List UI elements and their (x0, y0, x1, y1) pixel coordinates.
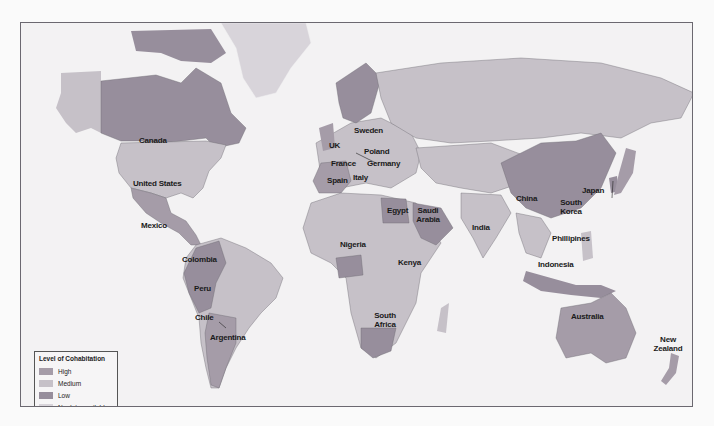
swatch-medium (39, 380, 53, 387)
label-united-states: United States (133, 179, 182, 188)
label-sweden: Sweden (354, 126, 383, 135)
label-nigeria: Nigeria (340, 240, 366, 249)
region-nigeria (336, 255, 363, 278)
label-argentina: Argentina (210, 333, 246, 342)
region-alaska (56, 71, 101, 133)
legend-label: No data available (58, 404, 108, 408)
region-indonesia (523, 271, 616, 298)
world-map: Canada United States Mexico Colombia Per… (20, 22, 693, 407)
label-india: India (472, 223, 490, 232)
label-germany: Germany (367, 159, 400, 168)
label-france: France (331, 159, 356, 168)
label-indonesia: Indonesia (538, 260, 574, 269)
region-australia (556, 293, 636, 363)
label-italy: Italy (353, 173, 368, 182)
legend: Level of Cohabitation High Medium Low No… (34, 351, 118, 407)
swatch-no-data (39, 404, 53, 408)
legend-item-high: High (39, 365, 113, 377)
legend-title: Level of Cohabitation (39, 355, 113, 362)
label-chile: Chile (195, 313, 214, 322)
label-south-africa: South Africa (371, 311, 399, 329)
label-kenya: Kenya (398, 258, 421, 267)
region-sweden (336, 63, 381, 123)
map-shapes (21, 23, 693, 407)
legend-label: High (58, 368, 71, 375)
region-se-asia (516, 213, 551, 258)
label-phillipines: Phillipines (552, 234, 590, 243)
label-uk: UK (329, 141, 340, 150)
region-greenland (221, 23, 311, 98)
label-peru: Peru (194, 284, 211, 293)
region-canada-islands (131, 29, 226, 63)
label-australia: Australia (571, 312, 603, 321)
swatch-low (39, 392, 53, 399)
label-south-korea: South Korea (558, 198, 584, 216)
label-new-zealand: New Zealand (653, 335, 683, 353)
label-mexico: Mexico (141, 221, 167, 230)
label-saudi-arabia: Saudi Arabia (410, 206, 446, 224)
region-argentina (205, 313, 236, 388)
label-egypt: Egypt (387, 206, 408, 215)
label-canada: Canada (139, 136, 167, 145)
label-spain: Spain (327, 176, 348, 185)
region-japan (614, 148, 636, 195)
region-south-africa (361, 328, 396, 358)
region-madagascar (437, 303, 449, 333)
region-canada (101, 68, 246, 148)
label-colombia: Colombia (182, 255, 217, 264)
swatch-high (39, 368, 53, 375)
legend-item-no-data: No data available (39, 401, 113, 407)
legend-item-medium: Medium (39, 377, 113, 389)
label-china: China (516, 194, 537, 203)
region-new-zealand (661, 353, 679, 385)
legend-item-low: Low (39, 389, 113, 401)
label-poland: Poland (364, 147, 389, 156)
label-japan: Japan (582, 186, 604, 195)
legend-label: Low (58, 392, 70, 399)
legend-label: Medium (58, 380, 81, 387)
region-russia (376, 58, 693, 143)
